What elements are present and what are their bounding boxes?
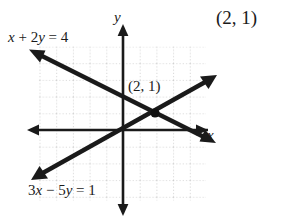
coordinate-graph-figure: x + 2y = 4 3x − 5y = 1 (2, 1) (2, 1) x y xyxy=(0,0,294,218)
answer-coordinate-label: (2, 1) xyxy=(216,8,257,27)
y-axis-label: y xyxy=(114,10,121,25)
equation-label-line-2: x + 2y = 4 xyxy=(8,30,68,45)
intersection-point-label: (2, 1) xyxy=(128,79,161,94)
equation-label-line-1: 3x − 5y = 1 xyxy=(28,183,96,198)
intersection-point-marker xyxy=(150,108,159,117)
x-axis-label: x xyxy=(207,128,214,143)
